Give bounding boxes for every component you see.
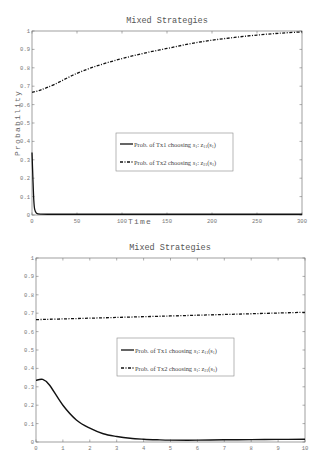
x-tick-label: 250: [252, 218, 262, 225]
series-tx2-line: [36, 312, 305, 319]
y-tick-label: 0.5: [24, 347, 34, 354]
x-tick-label: 0: [34, 445, 37, 452]
x-tick-label: 4: [142, 445, 146, 452]
y-tick-label: 0.4: [24, 365, 35, 372]
legend: Prob. of Tx1 choosing s1: z11(s1) Prob. …: [117, 338, 234, 376]
y-axis-label: Probability: [13, 90, 22, 156]
y-tick-label: 0.6: [24, 329, 34, 336]
x-tick-label: 9: [276, 445, 279, 452]
x-tick-label: 50: [74, 218, 81, 225]
y-tick-label: 0.2: [24, 402, 34, 409]
y-tick-label: 0.1: [20, 194, 31, 201]
y-tick-label: 0.3: [24, 384, 34, 391]
series-tx1-line: [36, 379, 305, 440]
x-tick-label: 0: [30, 218, 33, 225]
x-axis-label: Time: [128, 217, 152, 226]
y-tick-label: 0.1: [24, 421, 35, 428]
y-axis-ticks: 00.10.20.30.40.50.60.70.80.91: [20, 28, 302, 219]
bottom-chart: Mixed Strategies 00.10.20.30.40.50.60.70…: [24, 243, 308, 452]
x-tick-label: 3: [115, 445, 118, 452]
x-tick-label: 10: [302, 445, 309, 452]
y-tick-label: 0.3: [20, 157, 30, 164]
chart-title: Mixed Strategies: [126, 16, 208, 26]
x-tick-label: 2: [88, 445, 91, 452]
plot-area-frame: [32, 31, 302, 215]
chart-title: Mixed Strategies: [129, 243, 211, 253]
top-chart: Mixed Strategies 00.10.20.30.40.50.60.70…: [13, 16, 307, 226]
y-tick-label: 1: [27, 28, 31, 35]
x-tick-label: 150: [162, 218, 172, 225]
x-tick-label: 200: [207, 218, 217, 225]
x-tick-label: 300: [297, 218, 307, 225]
y-tick-label: 0.9: [24, 273, 34, 280]
y-tick-label: 0.7: [20, 83, 30, 90]
x-tick-label: 1: [61, 445, 65, 452]
x-tick-label: 5: [169, 445, 172, 452]
x-tick-label: 8: [250, 445, 253, 452]
y-tick-label: 0.9: [20, 46, 30, 53]
y-tick-label: 0.8: [24, 292, 34, 299]
figure-canvas: Mixed Strategies 00.10.20.30.40.50.60.70…: [0, 0, 322, 466]
legend: Prob. of Tx1 choosing s1: z11(s1) Prob. …: [116, 133, 233, 171]
x-tick-label: 7: [223, 445, 226, 452]
y-tick-label: 0.2: [20, 175, 30, 182]
x-tick-label: 100: [117, 218, 127, 225]
x-tick-label: 6: [196, 445, 199, 452]
series-tx2-line: [32, 32, 302, 92]
x-axis-ticks: 050100150200250300: [30, 31, 307, 225]
y-tick-label: 0.8: [20, 65, 30, 72]
y-tick-label: 0.7: [24, 310, 34, 317]
y-tick-label: 1: [31, 255, 35, 262]
